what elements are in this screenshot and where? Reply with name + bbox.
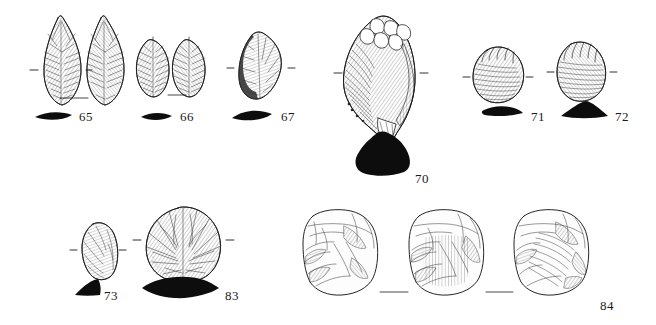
specimen-72-view-1	[557, 42, 606, 101]
specimen-84-view-3	[514, 210, 589, 296]
specimen-84-view-1	[303, 210, 378, 296]
label-83: 83	[225, 289, 239, 302]
label-72: 72	[615, 110, 629, 123]
specimen-70-view-1	[343, 16, 415, 148]
label-66: 66	[180, 110, 194, 123]
section-66	[141, 113, 172, 120]
specimen-66-view-1	[136, 37, 169, 97]
label-71: 71	[531, 110, 545, 123]
section-72	[561, 101, 608, 118]
label-65: 65	[79, 110, 93, 123]
specimen-84-view-2	[409, 210, 484, 296]
section-83	[142, 277, 219, 298]
specimen-67-view-1	[239, 32, 281, 99]
specimen-73-view-1	[82, 223, 118, 280]
specimen-65-view-2	[87, 16, 124, 105]
label-73: 73	[104, 289, 118, 302]
plate-drawing	[0, 0, 656, 325]
specimen-83-view-1	[146, 207, 221, 282]
section-70	[355, 132, 409, 176]
specimen-66-view-2	[172, 37, 205, 97]
label-84: 84	[600, 299, 614, 312]
label-67: 67	[281, 110, 295, 123]
section-67	[232, 111, 272, 121]
section-65	[35, 112, 72, 120]
lithic-illustration-plate: 65 66 67 70 71 72 73 83 84	[0, 0, 656, 325]
specimen-65-view-1	[44, 16, 81, 105]
section-73	[75, 279, 101, 296]
specimen-71-view-1	[473, 47, 524, 103]
label-70: 70	[415, 172, 429, 185]
section-71	[482, 106, 523, 116]
